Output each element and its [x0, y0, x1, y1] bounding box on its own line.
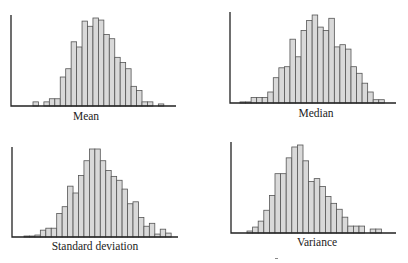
histogram-bar	[348, 226, 354, 233]
variance-axis-label: Variance	[297, 236, 337, 248]
variance-histogram-plot	[0, 0, 408, 263]
histogram-bar	[292, 147, 298, 233]
histogram-bar	[281, 174, 287, 233]
histogram-bar	[275, 174, 281, 233]
histogram-bar	[331, 203, 337, 233]
histogram-bar	[303, 161, 309, 233]
histogram-bar	[264, 210, 270, 233]
histogram-bar	[258, 221, 264, 233]
histogram-bar	[353, 226, 359, 233]
histogram-bar	[314, 179, 320, 233]
histogram-bar	[325, 196, 331, 233]
histogram-bar	[309, 182, 315, 233]
histogram-bar	[320, 187, 326, 233]
histogram-bar	[337, 209, 343, 233]
stray-mark	[275, 258, 278, 259]
histogram-bar	[359, 226, 365, 233]
variance-histogram: Variance	[0, 0, 408, 263]
histogram-bar	[297, 145, 303, 233]
histogram-bar	[253, 227, 259, 233]
histogram-bar	[269, 195, 275, 233]
histogram-bar	[342, 217, 348, 233]
histogram-bar	[286, 158, 292, 233]
